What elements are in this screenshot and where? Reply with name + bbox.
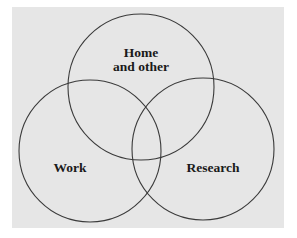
venn-label-work: Work [53,160,86,175]
venn-label-home: and other [113,59,169,74]
diagram-background [12,7,284,228]
venn-label-research: Research [187,160,240,175]
venn-diagram: Homeand otherWorkResearch [0,0,297,238]
venn-label-home: Home [124,45,159,60]
